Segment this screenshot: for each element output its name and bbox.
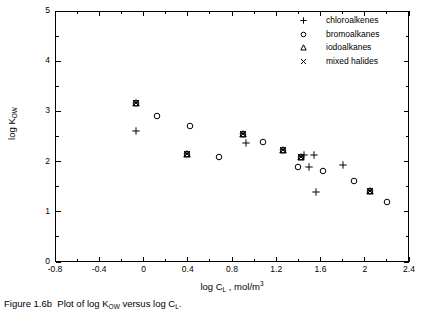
x-tick-1neg2 [276,11,277,16]
legend-label: bromoalkanes [326,29,379,39]
x-tick-minor [121,11,122,14]
caption-subscript-l: L [175,303,179,310]
x-axis-title-main: log C [200,281,222,292]
caption-suffix: . [179,298,182,309]
y-tick-minor [56,186,59,187]
x-tick-0neg8 [232,257,233,262]
legend: chloroalkenesbromoalkanesiodoalkanesmixe… [296,14,416,68]
y-tick-2 [56,161,61,162]
circle-marker [215,153,223,161]
y-tick-1 [56,211,61,212]
x-tick-minor [298,259,299,262]
y-tick-4 [56,61,61,62]
y-tick-minor [56,236,59,237]
figure-1-6b: -0.8-0.400.40.81.21.622.4012345 log KOW … [0,0,421,319]
circle-marker [383,198,391,206]
y-tick-minor [56,136,59,137]
legend-label: iodoalkanes [326,42,371,52]
x-tick-0neg4 [187,257,188,262]
y-axis-title-subscript: OW [11,107,18,118]
y-tick-label: 1 [36,206,50,216]
legend-label: chloroalkenes [326,15,378,25]
x-tick-0 [143,257,144,262]
y-tick-minor [56,86,59,87]
circle-marker [294,163,302,171]
x-tick-minor [209,259,210,262]
y-tick-2 [404,161,409,162]
y-tick-minor [56,36,59,37]
plus-marker [132,127,140,135]
y-tick-label: 2 [36,156,50,166]
cross-marker [296,55,312,68]
y-tick-5 [404,11,409,12]
y-tick-label: 4 [36,55,50,65]
circle-marker [153,112,161,120]
y-tick-1 [404,211,409,212]
y-axis-title-main: log K [6,118,17,140]
y-tick-0 [56,262,61,263]
circle-marker [350,177,358,185]
x-tick-minor [77,259,78,262]
figure-caption: Figure 1.6b Plot of log KOW versus log C… [4,298,181,309]
x-tick-label: 0.8 [212,264,252,274]
cross-marker [132,99,140,107]
x-tick-minor [77,11,78,14]
y-tick-0 [404,262,409,263]
x-tick-minor [386,259,387,262]
plus-marker [339,161,347,169]
y-tick-minor [406,86,409,87]
x-tick-label: 1.2 [256,264,296,274]
y-tick-label: 5 [36,5,50,15]
x-tick-0neg8 [232,11,233,16]
cross-marker [366,187,374,195]
x-tick-minor [121,259,122,262]
x-tick-label: -0.4 [79,264,119,274]
caption-text: Plot of log K [57,298,108,309]
plus-marker [296,14,312,27]
triangle-marker [296,41,312,54]
circle-marker [259,138,267,146]
plus-marker [310,151,318,159]
legend-item-mixed-halides: mixed halides [296,55,416,69]
x-tick-neg0-8 [55,11,56,16]
cross-marker [279,146,287,154]
x-axis-title-unit: , mol/m [226,281,260,292]
x-tick-minor [165,259,166,262]
x-tick-neg0-4 [99,11,100,16]
x-axis-title-superscript: 3 [260,280,264,287]
caption-figure-number: Figure 1.6b [4,298,52,309]
circle-marker [319,167,327,175]
plus-marker [242,139,250,147]
y-tick-label: 3 [36,105,50,115]
caption-middle: versus log C [120,298,175,309]
circle-marker [186,122,194,130]
legend-item-chloroalkenes: chloroalkenes [296,14,416,28]
plus-marker [305,163,313,171]
x-tick-label: 1.6 [301,264,341,274]
cross-marker [183,150,191,158]
y-tick-3 [56,111,61,112]
x-tick-0 [143,11,144,16]
caption-subscript-ow: OW [109,303,120,310]
y-tick-minor [406,186,409,187]
x-tick-minor [342,259,343,262]
x-tick-minor [209,11,210,14]
legend-label: mixed halides [326,56,378,66]
cross-marker [297,153,305,161]
x-tick-0neg4 [187,11,188,16]
x-tick-label: 2.4 [389,264,421,274]
x-tick-2 [364,257,365,262]
x-tick-minor [254,259,255,262]
x-tick-1neg6 [320,257,321,262]
plus-marker [312,188,320,196]
y-tick-label: 0 [36,256,50,266]
x-axis-title-subscript: L [223,286,227,293]
y-tick-minor [406,236,409,237]
x-tick-minor [165,11,166,14]
x-tick-minor [254,11,255,14]
x-tick-label: 0.4 [168,264,208,274]
cross-marker [239,130,247,138]
x-tick-label: 2 [345,264,385,274]
x-tick-label: 0 [124,264,164,274]
circle-marker [296,28,312,41]
